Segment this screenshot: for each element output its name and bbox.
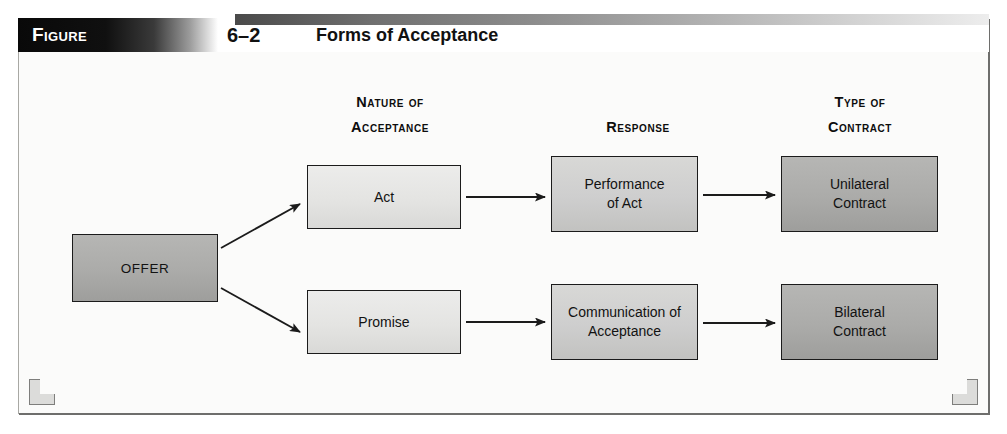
node-communication-line1: Communication of	[564, 303, 685, 322]
node-bilateral-contract: Bilateral Contract	[781, 284, 938, 360]
node-performance-of-act: Performance of Act	[551, 156, 698, 232]
node-promise-label: Promise	[354, 313, 413, 332]
figure-number: 6–2	[227, 24, 260, 47]
node-bilateral-line1: Bilateral	[829, 303, 890, 322]
node-performance-line2: of Act	[580, 194, 668, 213]
figure-page: Figure 6–2 Forms of Acceptance Nature of…	[0, 0, 1007, 434]
node-performance-text: Performance of Act	[580, 175, 668, 213]
node-offer: OFFER	[72, 234, 218, 302]
column-header-nature-of-acceptance: Nature of Acceptance	[290, 90, 490, 140]
node-unilateral-text: Unilateral Contract	[826, 175, 893, 213]
node-unilateral-contract: Unilateral Contract	[781, 156, 938, 232]
edge-offer-to-promise	[221, 288, 300, 332]
figure-title: Forms of Acceptance	[316, 25, 498, 46]
node-act: Act	[307, 165, 461, 229]
column-header-line2: Acceptance	[290, 115, 490, 140]
corner-ornament-bottom-right	[952, 379, 978, 405]
node-act-label: Act	[370, 188, 398, 207]
node-unilateral-line2: Contract	[826, 194, 893, 213]
corner-ornament-bottom-left	[29, 379, 55, 405]
diagram-canvas: Nature of Acceptance Response Type of Co…	[18, 52, 989, 414]
edge-offer-to-act	[221, 204, 300, 248]
figure-tab-label: Figure	[32, 24, 87, 46]
node-unilateral-line1: Unilateral	[826, 175, 893, 194]
node-promise: Promise	[307, 290, 461, 354]
header-accent-strip	[235, 14, 989, 25]
node-bilateral-line2: Contract	[829, 322, 890, 341]
node-communication-text: Communication of Acceptance	[564, 303, 685, 341]
column-header-response: Response	[538, 115, 738, 140]
column-header-line1: Response	[538, 115, 738, 140]
figure-tab: Figure	[18, 18, 218, 52]
node-communication-line2: Acceptance	[564, 322, 685, 341]
column-header-type-of-contract: Type of Contract	[760, 90, 960, 140]
column-header-line1: Nature of	[290, 90, 490, 115]
column-header-line1: Type of	[760, 90, 960, 115]
node-offer-label: OFFER	[117, 259, 174, 278]
node-performance-line1: Performance	[580, 175, 668, 194]
column-header-line2: Contract	[760, 115, 960, 140]
node-bilateral-text: Bilateral Contract	[829, 303, 890, 341]
node-communication-of-acceptance: Communication of Acceptance	[551, 284, 698, 360]
